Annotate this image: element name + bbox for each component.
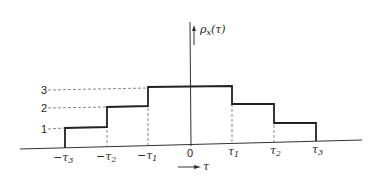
step-autocorrelation-diagram: ρx(τ) 3 2 1 −τ3 −τ2 −τ1 0 τ1 τ2 τ3 τ [0,0,380,180]
tau-arrow-head [194,165,201,169]
x-tick-neg-tau1: −τ1 [137,149,157,163]
rho-arrow-head [192,25,196,31]
x-tick-neg-tau2: −τ2 [96,150,116,164]
y-tick-3: 3 [41,84,47,96]
y-tick-2: 2 [41,102,47,114]
x-tick-tau1: τ1 [228,145,239,159]
y-tick-1: 1 [41,123,47,135]
rho-label: ρx(τ) [199,23,226,37]
guide-lines [48,88,274,147]
x-tick-tau2: τ2 [270,144,281,158]
origin-label: 0 [187,147,193,159]
tau-label: τ [203,160,210,173]
rho-axis [190,22,191,146]
x-tick-neg-tau3: −τ3 [53,151,73,165]
x-tick-tau3: τ3 [312,143,323,157]
